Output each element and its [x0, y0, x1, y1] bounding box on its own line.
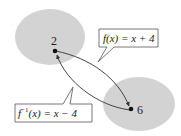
- inverse-rest: (x) = x − 4: [29, 107, 78, 120]
- point-6-dot: [129, 107, 134, 112]
- forward-function-label: f(x) = x + 4: [103, 32, 155, 45]
- forward-function-callout: f(x) = x + 4: [98, 29, 158, 62]
- point-2-label: 2: [51, 34, 57, 48]
- point-6-label: 6: [137, 103, 143, 117]
- function-inverse-diagram: 2 6 f(x) = x + 4 f−1(x) = x − 4: [0, 0, 181, 136]
- point-2-dot: [53, 49, 58, 54]
- inverse-function-callout: f−1(x) = x − 4: [15, 87, 92, 122]
